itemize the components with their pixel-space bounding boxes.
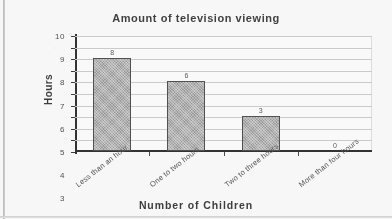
gridline bbox=[75, 36, 372, 37]
scan-edge-artifact-left bbox=[3, 0, 5, 219]
y-axis-tick-label: 7 bbox=[60, 101, 65, 110]
bar-value-label: 8 bbox=[110, 49, 114, 56]
y-axis-tick-label: 6 bbox=[60, 124, 65, 133]
y-axis-tick-label: 8 bbox=[60, 78, 65, 87]
y-axis-tick: 2 bbox=[71, 129, 75, 130]
bar-value-label: 6 bbox=[184, 72, 188, 79]
y-axis-tick: 4 bbox=[71, 106, 75, 107]
y-axis-tick: 9 bbox=[71, 48, 75, 49]
y-axis-tick: 0 bbox=[71, 152, 75, 153]
y-axis-tick-label: 5 bbox=[60, 148, 65, 157]
y-axis-tick: 1 bbox=[71, 140, 75, 141]
y-axis-title: Hours bbox=[43, 74, 54, 105]
plot-area: 109876543210 8630 bbox=[75, 36, 372, 152]
y-axis-tick: 8 bbox=[71, 59, 75, 60]
bar bbox=[167, 81, 205, 151]
gridline bbox=[75, 48, 372, 49]
y-axis-tick: 5 bbox=[71, 94, 75, 95]
chart-screenshot: Amount of television viewing Hours 10987… bbox=[0, 0, 392, 219]
x-axis-tick bbox=[298, 152, 299, 156]
chart-title: Amount of television viewing bbox=[0, 12, 392, 24]
y-axis-tick-label: 9 bbox=[60, 55, 65, 64]
y-axis-tick: 6 bbox=[71, 82, 75, 83]
bar bbox=[93, 58, 131, 151]
y-axis-tick-label: 10 bbox=[55, 32, 65, 41]
y-axis-tick: 7 bbox=[71, 71, 75, 72]
scan-edge-artifact-bottom bbox=[0, 216, 392, 218]
bar-value-label: 3 bbox=[259, 107, 263, 114]
x-axis-tick bbox=[224, 152, 225, 156]
x-axis-title: Number of Children bbox=[0, 199, 392, 211]
bar-value-label: 0 bbox=[333, 142, 337, 149]
x-axis-tick bbox=[149, 152, 150, 156]
y-axis-tick-label: 4 bbox=[60, 171, 65, 180]
y-axis-tick: 10 bbox=[71, 36, 75, 37]
y-axis-tick: 3 bbox=[71, 117, 75, 118]
y-axis-tick-label: 2 bbox=[60, 217, 65, 219]
